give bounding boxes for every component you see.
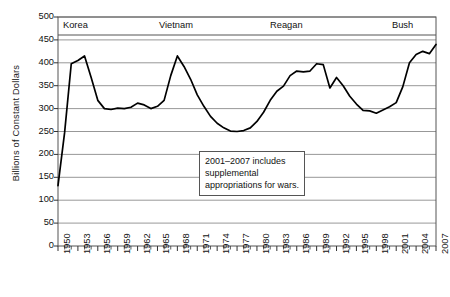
x-tick-label-1992: 1992 [341, 233, 351, 254]
era-label-vietnam: Vietnam [159, 20, 193, 30]
x-tick-label-1965: 1965 [161, 233, 171, 254]
x-tick-label-1983: 1983 [281, 233, 291, 254]
x-tick-label-1989: 1989 [321, 233, 331, 254]
era-label-korea: Korea [63, 20, 88, 30]
x-tick-label-2004: 2004 [420, 233, 430, 254]
x-tick-label-1980: 1980 [261, 233, 271, 254]
x-tick-label-1986: 1986 [301, 233, 311, 254]
era-label-bush: Bush [392, 20, 413, 30]
era-label-reagan: Reagan [270, 20, 303, 30]
x-tick-label-1998: 1998 [380, 233, 390, 254]
x-tick-label-1956: 1956 [102, 233, 112, 254]
x-tick-label-1959: 1959 [122, 233, 132, 254]
x-tick-label-2007: 2007 [440, 233, 450, 254]
x-tick-label-1995: 1995 [360, 233, 370, 254]
supplemental-appropriations-note: 2001–2007 includes supplemental appropri… [199, 151, 305, 196]
x-tick-label-2001: 2001 [400, 233, 410, 254]
x-tick-label-1950: 1950 [62, 233, 72, 254]
x-tick-label-1962: 1962 [142, 233, 152, 254]
x-tick-label-1971: 1971 [201, 233, 211, 254]
x-tick-label-1968: 1968 [181, 233, 191, 254]
note-line-3: appropriations for wars. [205, 179, 299, 191]
x-tick-label-1977: 1977 [241, 233, 251, 254]
note-line-1: 2001–2007 includes [205, 155, 299, 167]
note-line-2: supplemental [205, 167, 299, 179]
y-tick-marks [54, 17, 58, 246]
x-tick-label-1974: 1974 [221, 233, 231, 254]
x-tick-label-1953: 1953 [82, 233, 92, 254]
